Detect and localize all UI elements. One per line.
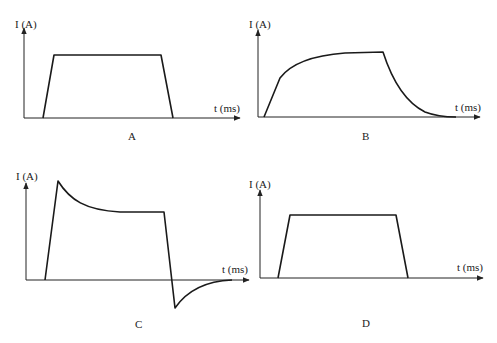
x-axis-label: t (ms) bbox=[455, 101, 481, 114]
panel-caption: D bbox=[362, 317, 370, 329]
waveform-curve bbox=[278, 215, 408, 278]
y-axis-label: I (A) bbox=[15, 18, 37, 31]
panel-caption: C bbox=[135, 318, 142, 330]
x-axis-label: t (ms) bbox=[214, 102, 240, 115]
panel-caption: A bbox=[128, 130, 136, 142]
y-axis-label: I (A) bbox=[249, 18, 271, 31]
waveform-curve bbox=[264, 52, 456, 117]
x-axis-label: t (ms) bbox=[457, 261, 483, 274]
x-axis-label: t (ms) bbox=[222, 263, 248, 276]
current-waveform-diagrams: I (A) t (ms) A I (A) t (ms) B I (A) t (m… bbox=[0, 0, 497, 343]
panel-caption: B bbox=[362, 130, 369, 142]
panel-d: I (A) t (ms) D bbox=[249, 178, 483, 329]
panel-a: I (A) t (ms) A bbox=[15, 18, 240, 142]
panel-c: I (A) t (ms) C bbox=[16, 170, 249, 330]
waveform-curve bbox=[43, 55, 173, 118]
y-axis-label: I (A) bbox=[16, 170, 38, 183]
y-axis-label: I (A) bbox=[249, 178, 271, 191]
panel-b: I (A) t (ms) B bbox=[249, 18, 481, 142]
waveform-curve bbox=[45, 181, 232, 308]
